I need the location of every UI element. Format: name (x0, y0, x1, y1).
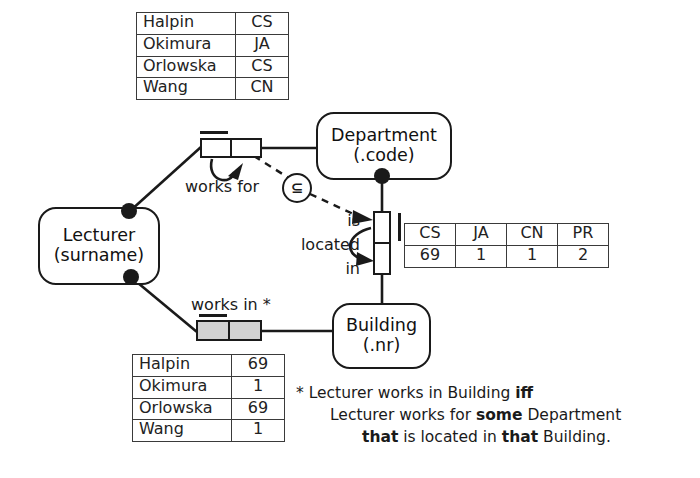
table-row: Orlowska CS (137, 56, 289, 78)
table-is-located-in-population: CS JA CN PR 69 1 1 2 (404, 223, 609, 268)
predicate-label-works-in: works in * (191, 296, 271, 313)
fact-type-works-for[interactable] (200, 138, 262, 158)
footnote-some-keyword: some (476, 406, 523, 424)
table-row: 69 1 1 2 (405, 245, 609, 267)
table-row: Orlowska 69 (133, 398, 285, 420)
entity-building-ref: (.nr) (363, 336, 401, 356)
cell-building-nr: 69 (232, 355, 285, 377)
cell-lecturer-name: Okimura (137, 34, 236, 56)
derivation-rule-footnote: * Lecturer works in Building iff Lecture… (296, 382, 621, 448)
line-lecturer-to-works-in (132, 278, 197, 332)
mandatory-dot-lecturer-works-in (123, 269, 139, 285)
cell-building-nr: 1 (232, 376, 285, 398)
cell-department-code-header: PR (558, 224, 609, 246)
cell-lecturer-name: Halpin (137, 13, 236, 35)
table-row: Halpin 69 (133, 355, 285, 377)
uniqueness-bar-works-in (199, 314, 227, 317)
fact-type-works-in-derived[interactable] (196, 320, 262, 341)
mandatory-dot-lecturer-works-for (121, 203, 137, 219)
table-row: Okimura JA (137, 34, 289, 56)
table-works-for-population: Halpin CS Okimura JA Orlowska CS Wang CN (136, 12, 289, 100)
entity-department-name: Department (331, 126, 437, 146)
footnote-that-keyword-a: that (362, 428, 398, 446)
cell-lecturer-name: Orlowska (133, 398, 232, 420)
table-row: Halpin CS (137, 13, 289, 35)
role-lecturer-works-in[interactable] (198, 322, 228, 339)
predicate-label-is-located-in-line3: in (288, 260, 360, 277)
role-department-is-located-in[interactable] (375, 213, 389, 242)
footnote-line-1: * Lecturer works in Building iff (296, 382, 621, 404)
footnote-line-3-mid: is located in (398, 428, 501, 446)
cell-department-code: CS (236, 13, 289, 35)
cell-department-code: JA (236, 34, 289, 56)
cell-building-nr: 1 (456, 245, 507, 267)
entity-lecturer-name: Lecturer (63, 226, 136, 246)
entity-lecturer[interactable]: Lecturer (surname) (38, 207, 160, 285)
cell-department-code: CN (236, 78, 289, 100)
predicate-label-works-for: works for (185, 178, 259, 195)
cell-building-nr: 2 (558, 245, 609, 267)
uniqueness-bar-is-located-in (398, 213, 401, 241)
mandatory-dot-department (374, 168, 390, 184)
footnote-line-3: that is located in that Building. (296, 426, 621, 448)
orm-diagram-canvas: Halpin CS Okimura JA Orlowska CS Wang CN… (0, 0, 700, 478)
table-header-row: CS JA CN PR (405, 224, 609, 246)
cell-lecturer-name: Wang (133, 420, 232, 442)
cell-building-nr: 1 (232, 420, 285, 442)
entity-building[interactable]: Building (.nr) (332, 303, 431, 369)
entity-building-name: Building (346, 316, 417, 336)
fact-type-is-located-in[interactable] (373, 211, 391, 275)
footnote-line-2: Lecturer works for some Department (296, 404, 621, 426)
role-building-works-in[interactable] (228, 322, 260, 339)
entity-department-ref: (.code) (353, 146, 414, 166)
cell-department-code-header: JA (456, 224, 507, 246)
footnote-line-2-prefix: Lecturer works for (330, 406, 476, 424)
uniqueness-bar-works-for (200, 131, 228, 134)
footnote-that-keyword-b: that (502, 428, 538, 446)
cell-lecturer-name: Halpin (133, 355, 232, 377)
predicate-label-is-located-in-line2: located (276, 236, 360, 253)
subset-constraint-icon: ⊆ (282, 173, 312, 203)
cell-lecturer-name: Orlowska (137, 56, 236, 78)
cell-building-nr: 69 (232, 398, 285, 420)
footnote-line-1-text: * Lecturer works in Building (296, 384, 515, 402)
footnote-line-3-suffix: Building. (538, 428, 611, 446)
cell-lecturer-name: Okimura (133, 376, 232, 398)
table-row: Okimura 1 (133, 376, 285, 398)
cell-building-nr: 69 (405, 245, 456, 267)
table-works-in-population: Halpin 69 Okimura 1 Orlowska 69 Wang 1 (132, 354, 285, 442)
predicate-label-is-located-in-line1: is (288, 212, 360, 229)
footnote-iff-keyword: iff (515, 384, 533, 402)
footnote-line-2-suffix: Department (523, 406, 622, 424)
role-lecturer-works-for[interactable] (202, 140, 230, 156)
entity-lecturer-ref: (surname) (54, 246, 144, 266)
table-row: Wang 1 (133, 420, 285, 442)
role-building-is-located-in[interactable] (375, 242, 389, 273)
cell-department-code: CS (236, 56, 289, 78)
cell-department-code-header: CS (405, 224, 456, 246)
cell-lecturer-name: Wang (137, 78, 236, 100)
role-department-works-for[interactable] (230, 140, 260, 156)
cell-building-nr: 1 (507, 245, 558, 267)
table-row: Wang CN (137, 78, 289, 100)
cell-department-code-header: CN (507, 224, 558, 246)
